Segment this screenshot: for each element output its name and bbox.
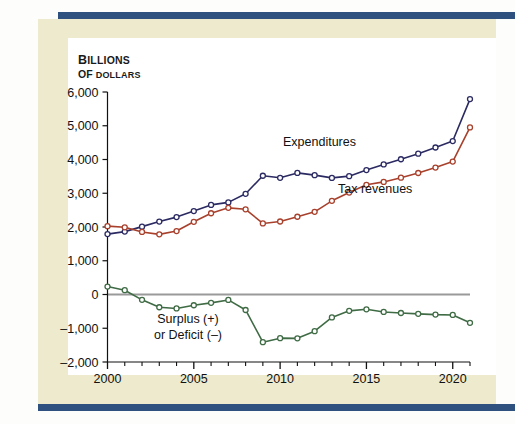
x-tick-label: 2020: [439, 372, 467, 386]
y-tick-label: 1,000: [67, 254, 98, 268]
y-tick-label: 0: [92, 288, 99, 302]
series-expenditures: [105, 97, 473, 237]
series-label-expenditures: Expenditures: [283, 135, 356, 149]
x-tick-label: 2000: [94, 372, 122, 386]
y-tick-label: 4,000: [67, 153, 98, 167]
x-tick-label: 2005: [180, 372, 208, 386]
y-tick-label: 5,000: [67, 119, 98, 133]
y-tick-label: –1,000: [60, 322, 98, 336]
y-tick-label: 6,000: [67, 86, 98, 100]
y-axis-ticks: 6,0005,0004,0003,0002,0001,0000–1,000–2,…: [60, 86, 107, 370]
line-chart: 6,0005,0004,0003,0002,0001,0000–1,000–2,…: [0, 0, 515, 424]
data-series-layer: [105, 97, 473, 345]
y-tick-label: 3,000: [67, 187, 98, 201]
y-tick-label: 2,000: [67, 221, 98, 235]
figure-container: BILLIONS OF DOLLARS 6,0005,0004,0003,000…: [0, 0, 515, 424]
x-tick-label: 2010: [266, 372, 294, 386]
x-axis-ticks: 20002005201020152020: [94, 362, 470, 386]
series-label-tax-revenues: Tax revenues: [338, 182, 412, 196]
x-tick-label: 2015: [353, 372, 381, 386]
series-label-deficit-line1: Surplus (+): [157, 312, 218, 326]
series-label-deficit-line2: or Deficit (–): [154, 328, 222, 342]
y-tick-label: –2,000: [60, 356, 98, 370]
